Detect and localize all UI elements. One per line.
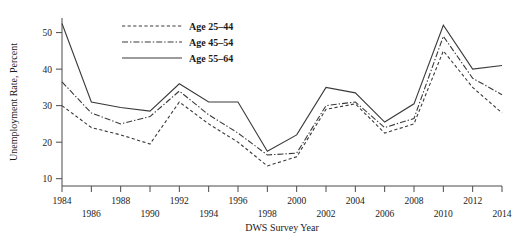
x-tick-label: 1990 <box>141 209 160 219</box>
x-tick-label: 2014 <box>493 209 512 219</box>
line-chart: 1020304050 Unemployment Rate, Percent 19… <box>0 0 517 241</box>
y-tick-label: 30 <box>43 101 53 111</box>
x-tick-label: 1994 <box>199 209 218 219</box>
y-axis-title: Unemployment Rate, Percent <box>8 43 19 161</box>
x-tick-label: 1988 <box>111 196 130 206</box>
x-tick-label: 2012 <box>463 196 482 206</box>
y-axis: 1020304050 Unemployment Rate, Percent <box>8 18 62 186</box>
y-tick-label: 50 <box>43 28 53 38</box>
legend-label-0: Age 25–44 <box>189 21 233 32</box>
chart-canvas: 1020304050 Unemployment Rate, Percent 19… <box>0 0 517 241</box>
x-tick-label: 2008 <box>405 196 424 206</box>
x-tick-label: 1984 <box>53 196 72 206</box>
x-tick-label: 2006 <box>375 209 394 219</box>
series-group <box>62 23 502 165</box>
x-tick-label: 2010 <box>434 209 453 219</box>
x-axis: 1984198619881990199219941996199820002002… <box>53 186 512 233</box>
chart-legend: Age 25–44Age 45–54Age 55–64 <box>122 21 233 64</box>
y-tick-label: 40 <box>43 65 53 75</box>
x-axis-title: DWS Survey Year <box>245 222 319 233</box>
x-tick-label: 1996 <box>229 196 248 206</box>
y-tick-label: 10 <box>43 174 53 184</box>
x-tick-label: 1992 <box>170 196 189 206</box>
y-tick-group: 1020304050 <box>43 28 63 184</box>
y-tick-label: 20 <box>43 138 53 148</box>
legend-label-2: Age 55–64 <box>189 53 233 64</box>
x-tick-label: 2004 <box>346 196 365 206</box>
x-tick-label: 1998 <box>258 209 277 219</box>
series-line-2 <box>62 23 502 151</box>
x-tick-label: 2002 <box>317 209 336 219</box>
x-tick-group: 1984198619881990199219941996199820002002… <box>53 186 512 219</box>
x-tick-label: 1986 <box>82 209 101 219</box>
legend-label-1: Age 45–54 <box>189 37 233 48</box>
x-tick-label: 2000 <box>287 196 306 206</box>
